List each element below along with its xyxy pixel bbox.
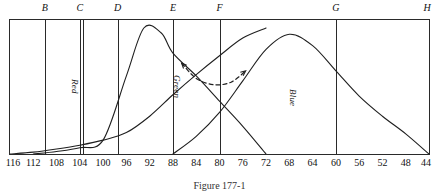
curve-red bbox=[10, 28, 266, 154]
x-tick-108: 108 bbox=[49, 157, 64, 169]
x-tick-92: 92 bbox=[145, 157, 155, 169]
top-marker-f: F bbox=[216, 3, 222, 13]
figure-177-1: BCDEFGH RedGreenBlue 1161121081041009692… bbox=[0, 0, 439, 191]
curve-green bbox=[33, 25, 266, 154]
x-tick-72: 72 bbox=[261, 157, 271, 169]
x-tick-56: 56 bbox=[354, 157, 364, 169]
plot-frame: RedGreenBlue bbox=[9, 19, 430, 155]
x-tick-88: 88 bbox=[168, 157, 178, 169]
curve-label-blue: Blue bbox=[288, 89, 297, 106]
x-tick-44: 44 bbox=[421, 157, 431, 169]
divider-lines bbox=[46, 20, 337, 154]
x-tick-48: 48 bbox=[401, 157, 411, 169]
x-tick-100: 100 bbox=[96, 157, 111, 169]
x-tick-68: 68 bbox=[284, 157, 294, 169]
x-tick-104: 104 bbox=[72, 157, 87, 169]
top-marker-b: B bbox=[42, 3, 48, 13]
curve-transition-arrow bbox=[182, 63, 246, 85]
x-tick-112: 112 bbox=[26, 157, 41, 169]
top-marker-d: D bbox=[114, 3, 121, 13]
curve-label-red: Red bbox=[70, 79, 79, 94]
curve-label-green: Green bbox=[172, 75, 181, 98]
x-tick-76: 76 bbox=[238, 157, 248, 169]
x-tick-80: 80 bbox=[215, 157, 225, 169]
x-tick-52: 52 bbox=[377, 157, 387, 169]
top-marker-c: C bbox=[76, 3, 83, 13]
x-axis-tick-labels: 1161121081041009692888480767268646056524… bbox=[0, 157, 439, 171]
top-marker-e: E bbox=[170, 3, 176, 13]
x-tick-60: 60 bbox=[331, 157, 341, 169]
figure-caption: Figure 177-1 bbox=[0, 180, 439, 191]
top-marker-g: G bbox=[332, 3, 339, 13]
x-tick-64: 64 bbox=[308, 157, 318, 169]
curve-blue bbox=[173, 34, 429, 154]
x-tick-96: 96 bbox=[121, 157, 131, 169]
x-tick-116: 116 bbox=[6, 157, 21, 169]
x-tick-84: 84 bbox=[191, 157, 201, 169]
top-marker-h: H bbox=[423, 3, 430, 13]
